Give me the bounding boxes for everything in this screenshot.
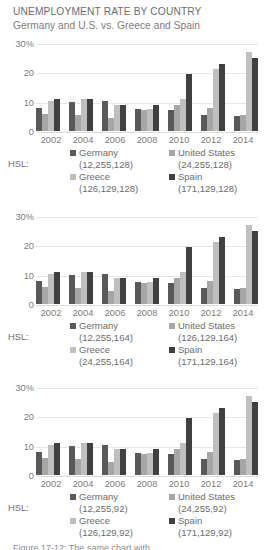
legend-label: Germany	[79, 147, 118, 159]
y-axis-labels: 30%20100	[0, 388, 34, 476]
legend-hsl-value: (126,129,128)	[79, 183, 169, 195]
legend-item[interactable]: Germany(12,255,164)	[70, 320, 169, 344]
y-axis-tick: 0	[29, 472, 34, 481]
x-axis-tick: 2014	[228, 479, 258, 489]
bar-group	[201, 216, 225, 304]
legend-item-name: Spain	[169, 344, 268, 356]
bar-group	[36, 387, 60, 475]
x-axis-tick: 2006	[100, 479, 130, 489]
chart-block-2: 30%201002002200420062008201020122014HSL:…	[0, 207, 269, 377]
y-axis-tick: 10	[24, 443, 34, 452]
bar-groups	[36, 43, 258, 131]
y-axis-tick: 0	[29, 301, 34, 310]
y-axis-labels: 30%20100	[0, 217, 34, 305]
x-axis-tick: 2008	[132, 308, 162, 318]
bar	[219, 64, 225, 131]
legend-hsl-value: (12,255,164)	[79, 332, 169, 344]
legend: Germany(12,255,164)United States(126,129…	[70, 320, 269, 368]
legend-item[interactable]: Greece(126,129,92)	[70, 515, 169, 539]
page-subtitle: Germany and U.S. vs. Greece and Spain	[13, 20, 200, 31]
bar	[87, 272, 93, 304]
legend-item[interactable]: Greece(126,129,128)	[70, 171, 169, 195]
legend-row: Greece(24,255,164)Spain(171,129,164)	[70, 344, 269, 368]
legend-hsl-value: (171,129,92)	[178, 527, 268, 539]
x-axis-tick: 2012	[196, 308, 226, 318]
x-axis-tick: 2012	[196, 135, 226, 145]
legend-label: United States	[178, 320, 235, 332]
x-axis-tick: 2014	[228, 308, 258, 318]
bar	[120, 278, 126, 304]
legend-item[interactable]: United States(126,129,164)	[169, 320, 268, 344]
legend-item[interactable]: Germany(12,255,92)	[70, 491, 169, 515]
legend-hsl-value: (171,129,128)	[178, 183, 268, 195]
bar	[153, 105, 159, 131]
legend-row: Greece(126,129,92)Spain(171,129,92)	[70, 515, 269, 539]
bar	[219, 237, 225, 304]
y-axis-tick: 20	[24, 413, 34, 422]
bar-group	[168, 387, 192, 475]
bar	[186, 74, 192, 131]
legend-label: Spain	[178, 344, 202, 356]
legend-item[interactable]: United States(24,255,128)	[169, 147, 268, 171]
legend-label: Spain	[178, 515, 202, 527]
bar	[252, 58, 258, 131]
legend-swatch-icon	[70, 150, 76, 156]
chart-block-1: 30%201002002200420062008201020122014HSL:…	[0, 34, 269, 204]
legend-hsl-value: (24,255,128)	[178, 159, 268, 171]
hsl-label: HSL:	[8, 332, 29, 342]
legend-item-name: Germany	[70, 320, 169, 332]
legend-item[interactable]: Spain(171,129,92)	[169, 515, 268, 539]
bar-group	[135, 43, 159, 131]
x-axis-tick: 2002	[36, 135, 66, 145]
legend-item[interactable]: Spain(171,129,164)	[169, 344, 268, 368]
y-axis-tick: 10	[24, 272, 34, 281]
y-axis-tick: 30%	[15, 40, 34, 49]
legend-item[interactable]: Greece(24,255,164)	[70, 344, 169, 368]
bar	[186, 247, 192, 304]
figure-container: UNEMPLOYMENT RATE BY COUNTRY Germany and…	[0, 0, 269, 550]
legend-hsl-value: (24,255,92)	[178, 503, 268, 515]
bar-group	[69, 43, 93, 131]
bar	[252, 402, 258, 475]
bar-group	[234, 387, 258, 475]
legend-item-name: United States	[169, 491, 268, 503]
legend-item[interactable]: Germany(12,255,128)	[70, 147, 169, 171]
legend-item[interactable]: Spain(171,129,128)	[169, 171, 268, 195]
x-axis-labels: 2002200420062008201020122014	[36, 135, 258, 145]
bar-group	[102, 387, 126, 475]
figure-caption: Figure 17-12: The same chart with	[13, 543, 150, 550]
x-axis-tick: 2010	[164, 308, 194, 318]
y-axis-tick: 10	[24, 99, 34, 108]
plot-area	[36, 217, 258, 305]
legend-swatch-icon	[169, 494, 175, 500]
x-axis-tick: 2012	[196, 479, 226, 489]
bar-group	[36, 216, 60, 304]
y-axis-tick: 0	[29, 128, 34, 137]
legend-item-name: United States	[169, 147, 268, 159]
bar	[54, 99, 60, 131]
bar	[87, 99, 93, 131]
plot-area	[36, 388, 258, 476]
y-axis-tick: 30%	[15, 213, 34, 222]
bar-group	[234, 43, 258, 131]
legend-item-name: Greece	[70, 344, 169, 356]
bar	[153, 278, 159, 304]
legend-swatch-icon	[169, 323, 175, 329]
bar	[219, 408, 225, 475]
legend-item-name: Spain	[169, 171, 268, 183]
legend-row: Greece(126,129,128)Spain(171,129,128)	[70, 171, 269, 195]
bar	[153, 449, 159, 475]
legend-label: Germany	[79, 491, 118, 503]
hsl-label: HSL:	[8, 159, 29, 169]
x-axis-tick: 2008	[132, 479, 162, 489]
y-axis-tick: 20	[24, 69, 34, 78]
x-axis-labels: 2002200420062008201020122014	[36, 479, 258, 489]
x-axis-line	[36, 305, 258, 306]
bar	[54, 443, 60, 475]
x-axis-line	[36, 476, 258, 477]
legend-row: Germany(12,255,92)United States(24,255,9…	[70, 491, 269, 515]
legend-item[interactable]: United States(24,255,92)	[169, 491, 268, 515]
legend-row: Germany(12,255,164)United States(126,129…	[70, 320, 269, 344]
legend-swatch-icon	[70, 518, 76, 524]
x-axis-labels: 2002200420062008201020122014	[36, 308, 258, 318]
